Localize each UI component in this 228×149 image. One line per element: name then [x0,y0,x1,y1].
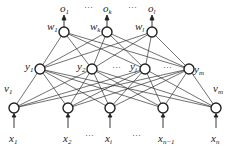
hidden-label: yj [129,60,137,74]
ellipsis: ··· [85,130,94,140]
input-label: xn [210,132,220,146]
output-label: ok [103,2,113,16]
ellipsis: ··· [112,62,121,72]
input-node [63,103,73,113]
ellipsis: ··· [128,2,137,12]
output-weight-label: wl [135,20,144,34]
output-node [147,27,157,37]
neural-network-diagram: o1okolw1wkwl······y1y2yjym······v1vmx1x2… [0,0,228,149]
input-weight-label: v1 [4,82,12,96]
input-node [158,103,168,113]
hidden-node [35,64,45,74]
input-node [105,103,115,113]
hidden-label: y1 [24,60,33,74]
hidden-label: ym [193,63,204,77]
hidden-node [87,64,97,74]
input-label: xn−1 [157,132,175,146]
output-weight-label: wk [90,20,101,34]
ellipsis: ··· [163,62,172,72]
input-label: xi [104,132,112,146]
input-node [211,103,221,113]
output-node [102,27,112,37]
input-label: x1 [8,132,17,146]
output-weight-label: w1 [47,20,58,34]
input-label: x2 [62,132,72,146]
input-node [9,103,19,113]
ellipsis: ··· [132,130,141,140]
input-weight-label: vm [213,82,223,96]
output-label: ol [148,2,156,16]
hidden-node [140,64,150,74]
output-label: o1 [60,2,69,16]
hidden-node [184,64,194,74]
ellipsis: ··· [84,2,93,12]
hidden-label: y2 [76,60,86,74]
output-node [59,27,69,37]
